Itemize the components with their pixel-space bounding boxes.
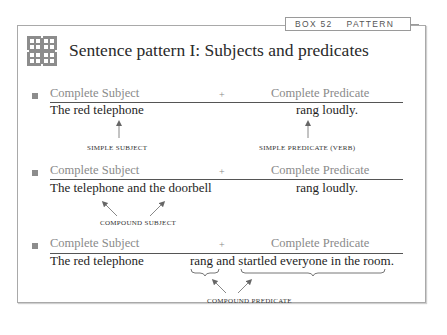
bullet-marker: [32, 93, 38, 99]
box-label-tab: BOX 52 PATTERN: [285, 17, 411, 31]
page-title: Sentence pattern I: Subjects and predica…: [69, 40, 369, 61]
bullet-marker: [32, 170, 38, 176]
box-category: PATTERN: [347, 19, 395, 29]
complete-predicate-label: Complete Predicate: [271, 86, 369, 101]
compound-subject-caption: COMPOUND SUBJECT: [100, 219, 176, 227]
predicate-text: rang loudly.: [296, 102, 358, 118]
compound-predicate-caption: COMPOUND PREDICATE: [207, 297, 292, 305]
bullet-marker: [32, 243, 38, 249]
plus-sign: +: [219, 89, 225, 100]
subject-text: The telephone and the doorbell: [50, 180, 212, 196]
subject-text: The red telephone: [50, 253, 144, 269]
complete-subject-label: Complete Subject: [50, 163, 139, 178]
interlaced-knot-icon: [27, 36, 57, 66]
tab-connector-line: [411, 24, 419, 25]
box-number: BOX 52: [295, 19, 333, 29]
complete-predicate-label: Complete Predicate: [271, 163, 369, 178]
subject-text: The red telephone: [50, 102, 144, 118]
complete-subject-label: Complete Subject: [50, 86, 139, 101]
complete-subject-label: Complete Subject: [50, 236, 139, 251]
simple-subject-caption: SIMPLE SUBJECT: [87, 144, 147, 152]
simple-predicate-caption: SIMPLE PREDICATE (VERB): [259, 144, 355, 152]
complete-predicate-label: Complete Predicate: [271, 236, 369, 251]
plus-sign: +: [219, 239, 225, 250]
predicate-text: rang and startled everyone in the room.: [190, 253, 394, 269]
predicate-text: rang loudly.: [296, 180, 358, 196]
plus-sign: +: [219, 166, 225, 177]
